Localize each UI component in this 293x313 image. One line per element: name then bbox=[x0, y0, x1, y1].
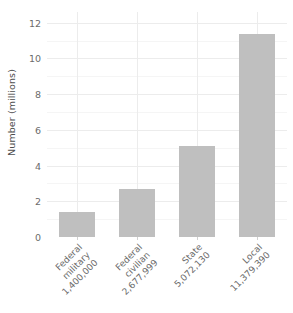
bar-chart: Number (millions) 024681012 Federalmilit… bbox=[0, 0, 293, 313]
y-tick-label: 8 bbox=[35, 89, 41, 100]
y-axis-title: Number (millions) bbox=[0, 0, 22, 225]
bar bbox=[119, 189, 155, 237]
bar bbox=[59, 212, 95, 237]
x-tick-mark bbox=[257, 237, 258, 240]
y-tick-label: 10 bbox=[29, 53, 41, 64]
x-axis-tick-labels: Federalmilitary1,400,000Federalcivilian2… bbox=[47, 237, 287, 313]
y-tick-label: 2 bbox=[35, 196, 41, 207]
x-tick-mark bbox=[77, 237, 78, 240]
y-axis-title-text: Number (millions) bbox=[6, 69, 17, 156]
x-tick-mark bbox=[137, 237, 138, 240]
bar bbox=[239, 34, 275, 237]
gridline-major-horizontal bbox=[47, 23, 287, 24]
y-tick-label: 6 bbox=[35, 124, 41, 135]
y-tick-label: 4 bbox=[35, 160, 41, 171]
plot-panel bbox=[47, 12, 287, 237]
gridline-major-vertical bbox=[77, 12, 78, 237]
x-tick-mark bbox=[197, 237, 198, 240]
y-axis-tick-labels: 024681012 bbox=[22, 0, 44, 313]
bar bbox=[179, 146, 215, 237]
y-tick-label: 0 bbox=[35, 232, 41, 243]
y-tick-label: 12 bbox=[29, 17, 41, 28]
